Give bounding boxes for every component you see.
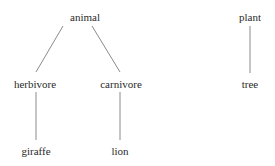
node-tree: tree (242, 78, 259, 90)
edge-animal-herbivore (36, 26, 63, 72)
node-giraffe: giraffe (21, 145, 50, 157)
tree-diagram: animalherbivorecarnivoregiraffelionplant… (0, 0, 275, 166)
node-plant: plant (239, 11, 261, 23)
edges (36, 26, 250, 140)
node-animal: animal (70, 11, 100, 23)
node-carnivore: carnivore (100, 78, 142, 90)
nodes: animalherbivorecarnivoregiraffelionplant… (14, 11, 261, 157)
edge-animal-carnivore (92, 26, 120, 72)
node-herbivore: herbivore (14, 78, 56, 90)
node-lion: lion (111, 145, 129, 157)
